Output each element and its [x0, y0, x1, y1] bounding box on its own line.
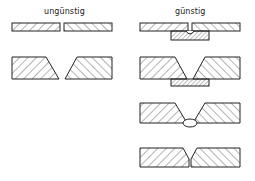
favorable-v-joint-with-backing: [140, 57, 240, 86]
right-bevel-plate: [65, 57, 112, 79]
left-plate: [140, 23, 188, 31]
weld-joint-diagram: [0, 0, 255, 181]
favorable-v-joint-closed-root: [140, 148, 240, 167]
unfavorable-v-joint-open-root: [12, 57, 112, 79]
backing-strip: [171, 79, 209, 86]
right-bevel-plate: [191, 148, 240, 167]
left-plate: [12, 23, 60, 31]
right-plate: [64, 23, 112, 31]
favorable-v-joint-with-root-bead: [140, 103, 240, 127]
favorable-square-butt-with-backing: [140, 23, 240, 40]
unfavorable-square-butt-joint: [12, 23, 112, 31]
left-bevel-plate: [140, 103, 187, 123]
left-bevel-plate: [140, 57, 187, 79]
left-bevel-plate: [12, 57, 59, 79]
root-bead: [183, 119, 197, 127]
right-plate: [192, 23, 240, 31]
right-bevel-plate: [193, 103, 240, 123]
right-bevel-plate: [193, 57, 240, 79]
left-bevel-plate: [140, 148, 189, 167]
